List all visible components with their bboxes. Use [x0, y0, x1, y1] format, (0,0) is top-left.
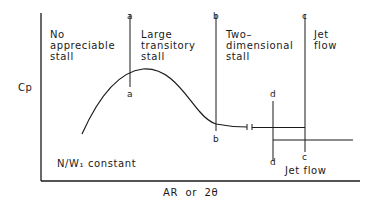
region-label-two-dimensional-stall: Two– dimensional stall	[226, 29, 293, 62]
line-c-top-label: c	[302, 11, 308, 22]
line-a-bottom-label: a	[127, 89, 133, 100]
region-label-jet-flow-lower: Jet flow	[285, 165, 327, 176]
line-a-top-label: a	[127, 11, 133, 22]
y-axis-label: Cp	[18, 82, 33, 93]
line-c-bottom-label: c	[302, 152, 308, 163]
region-label-no-stall: No appreciable stall	[50, 29, 115, 62]
region-label-jet-flow: Jet flow	[314, 29, 337, 51]
line-d-top-label: d	[270, 89, 276, 100]
line-b-bottom-label: b	[213, 134, 219, 145]
x-axis-label: AR or 2θ	[163, 187, 218, 198]
line-d-bottom-label: d	[270, 157, 276, 168]
cp-curve	[82, 69, 247, 134]
region-label-large-transitory-stall: Large transitory stall	[141, 29, 196, 62]
line-b-top-label: b	[213, 11, 219, 22]
condition-note: N/W₁ constant	[57, 158, 136, 169]
